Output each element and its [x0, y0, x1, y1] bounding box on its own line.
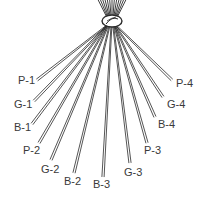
strand-line	[50, 25, 108, 160]
knot	[102, 15, 122, 27]
strand-label: P-1	[18, 75, 35, 86]
strand-line	[114, 25, 146, 143]
strand-line	[115, 25, 156, 117]
strand-label: B-1	[14, 122, 31, 133]
strand-label: P-4	[176, 78, 193, 89]
strand-line	[114, 25, 154, 117]
strand-label: G-3	[124, 167, 142, 178]
strand-label: B-3	[93, 179, 110, 190]
strand-line	[33, 25, 107, 101]
strand-label: G-2	[41, 164, 59, 175]
strand-line	[104, 25, 112, 177]
strand-line	[33, 25, 108, 124]
strand-label: G-1	[14, 99, 32, 110]
strand-line	[40, 25, 108, 143]
strand-label: P-3	[144, 145, 161, 156]
strand-label: B-4	[158, 119, 175, 130]
strand-line	[38, 25, 107, 143]
strand-line	[35, 25, 108, 101]
strand-line	[115, 25, 162, 97]
strand-label: B-2	[64, 176, 81, 187]
strand-label: P-2	[23, 145, 40, 156]
strand-label: G-4	[167, 99, 185, 110]
strand-line	[115, 25, 163, 97]
strand-line	[115, 25, 171, 80]
